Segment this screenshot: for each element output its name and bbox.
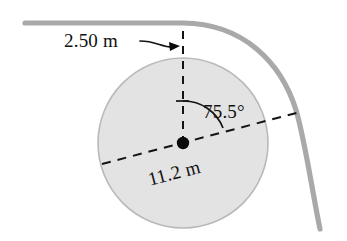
- figure-container: 2.50 m 75.5° 11.2 m: [0, 0, 347, 241]
- diagram-canvas: 2.50 m 75.5° 11.2 m: [0, 0, 347, 241]
- offset-arrow-head: [169, 42, 180, 51]
- offset-leader-line: [140, 41, 172, 47]
- angle-label: 75.5°: [203, 101, 245, 122]
- center-point-dot: [177, 137, 189, 149]
- offset-distance-label: 2.50 m: [64, 30, 118, 51]
